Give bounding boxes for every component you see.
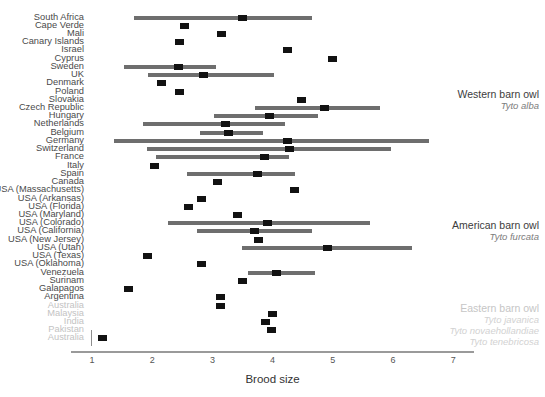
range-bar	[156, 155, 290, 159]
mean-marker	[265, 113, 274, 119]
x-tick-label: 6	[390, 355, 395, 365]
species-annotation: Eastern barn owlTyto javanicaTyto novaeh…	[449, 302, 539, 347]
mean-marker	[320, 105, 329, 111]
species-scientific-name: Tyto javanica	[449, 314, 539, 325]
mean-marker	[197, 196, 206, 202]
x-tick-label: 5	[330, 355, 335, 365]
mean-marker	[238, 278, 247, 284]
mean-marker	[267, 327, 276, 333]
mean-marker	[143, 253, 152, 259]
range-bar	[255, 106, 380, 110]
x-axis-title: Brood size	[245, 373, 299, 385]
range-whisker	[91, 330, 92, 346]
species-scientific-name: Tyto tenebricosa	[449, 336, 539, 347]
x-axis-line	[71, 351, 474, 353]
mean-marker	[180, 23, 189, 29]
x-tick-label: 2	[150, 355, 155, 365]
mean-marker	[254, 237, 263, 243]
mean-marker	[283, 47, 292, 53]
range-bar	[114, 139, 429, 143]
range-bar	[143, 122, 284, 126]
species-common-name: American barn owl	[452, 219, 539, 231]
mean-marker	[124, 286, 133, 292]
mean-marker	[297, 97, 306, 103]
species-scientific-name: Tyto alba	[457, 100, 539, 111]
mean-marker	[253, 171, 262, 177]
mean-marker	[157, 80, 166, 86]
range-bar	[147, 147, 391, 151]
range-bar	[187, 172, 295, 176]
mean-marker	[283, 138, 292, 144]
mean-marker	[216, 303, 225, 309]
mean-marker	[197, 261, 206, 267]
species-annotation: Western barn owlTyto alba	[457, 88, 539, 111]
mean-marker	[233, 212, 242, 218]
mean-marker	[199, 72, 208, 78]
range-bar	[134, 16, 312, 20]
mean-marker	[238, 15, 247, 21]
species-common-name: Eastern barn owl	[449, 302, 539, 314]
mean-marker	[98, 335, 107, 341]
mean-marker	[184, 204, 193, 210]
x-tick-label: 3	[210, 355, 215, 365]
mean-marker	[217, 31, 226, 37]
mean-marker	[285, 146, 294, 152]
mean-marker	[174, 64, 183, 70]
range-bar	[148, 73, 274, 77]
mean-marker	[290, 187, 299, 193]
mean-marker	[323, 245, 332, 251]
mean-marker	[175, 89, 184, 95]
species-common-name: Western barn owl	[457, 88, 539, 100]
mean-marker	[216, 294, 225, 300]
range-bar	[124, 65, 216, 69]
species-scientific-name: Tyto furcata	[452, 231, 539, 242]
mean-marker	[272, 270, 281, 276]
mean-marker	[213, 179, 222, 185]
mean-marker	[328, 56, 337, 62]
mean-marker	[175, 39, 184, 45]
mean-marker	[224, 130, 233, 136]
mean-marker	[221, 121, 230, 127]
species-scientific-name: Tyto novaehollandiae	[449, 325, 539, 336]
range-bar	[248, 271, 315, 275]
species-annotation: American barn owlTyto furcata	[452, 219, 539, 242]
mean-marker	[250, 228, 259, 234]
x-tick-label: 7	[451, 355, 456, 365]
mean-marker	[268, 311, 277, 317]
mean-marker	[260, 154, 269, 160]
x-tick-label: 1	[89, 355, 94, 365]
mean-marker	[263, 220, 272, 226]
mean-marker	[261, 319, 270, 325]
x-tick-label: 4	[270, 355, 275, 365]
mean-marker	[150, 163, 159, 169]
brood-size-forest-plot: South AfricaCape VerdeMaliCanary Islands…	[0, 0, 545, 397]
